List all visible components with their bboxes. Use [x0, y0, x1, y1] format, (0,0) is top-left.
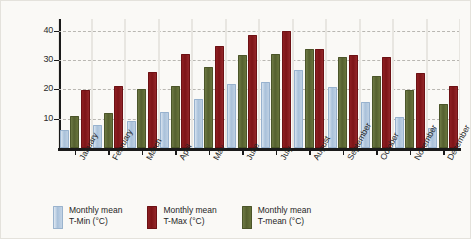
legend-label-line1: Monthly mean: [163, 205, 216, 216]
bar-group: [326, 19, 360, 148]
legend-label: Monthly meanT-Max (°C): [163, 205, 216, 227]
legend-swatch-tmax: [147, 206, 157, 229]
x-tick-mark: [175, 148, 177, 155]
x-tick-mark: [142, 148, 144, 155]
bar-tmax: [248, 35, 257, 148]
bar-group: [92, 19, 126, 148]
x-tick-mark: [242, 148, 244, 155]
y-tick-label: 40: [27, 25, 53, 35]
bar-group: [259, 19, 293, 148]
x-tick-mark: [108, 148, 110, 155]
y-tick-label: 20: [27, 83, 53, 93]
chart-legend: Monthly meanT-Min (°C)Monthly meanT-Max …: [53, 205, 311, 229]
legend-label-line2: T-mean (°C): [258, 216, 311, 227]
bar-tmean: [238, 55, 247, 148]
plot-area: [58, 19, 460, 148]
bar-tmax: [181, 54, 190, 148]
y-tick-mark: [54, 89, 59, 90]
chart-figure: Temperature (°C) 10203040 JanuaryFebruar…: [0, 0, 471, 239]
y-tick-mark: [54, 60, 59, 61]
legend-label: Monthly meanT-mean (°C): [258, 205, 311, 227]
bar-tmean: [305, 49, 314, 148]
bar-tmean: [405, 90, 414, 148]
bar-tmean: [171, 86, 180, 148]
bar-tmean: [439, 104, 448, 149]
bar-tmean: [104, 113, 113, 148]
bar-tmin: [261, 82, 270, 149]
legend-label-line1: Monthly mean: [69, 205, 122, 216]
bar-tmin: [60, 130, 69, 148]
bar-group: [192, 19, 226, 148]
bar-tmean: [271, 54, 280, 148]
legend-label-line2: T-Min (°C): [69, 216, 122, 227]
y-tick-mark: [54, 119, 59, 120]
legend-label-line2: T-Max (°C): [163, 216, 216, 227]
x-tick-mark: [343, 148, 345, 155]
legend-item[interactable]: Monthly meanT-Min (°C): [53, 205, 122, 229]
x-tick-mark: [376, 148, 378, 155]
bar-group: [226, 19, 260, 148]
bar-group: [159, 19, 193, 148]
legend-label: Monthly meanT-Min (°C): [69, 205, 122, 227]
bar-tmin: [227, 84, 236, 148]
bar-tmax: [282, 31, 291, 148]
bar-tmean: [204, 67, 213, 148]
x-tick-mark: [410, 148, 412, 155]
bar-tmax: [215, 46, 224, 148]
y-tick-mark: [54, 31, 59, 32]
legend-swatch-tmin: [53, 206, 63, 229]
bar-tmean: [137, 89, 146, 148]
bar-group: [393, 19, 427, 148]
bar-group: [58, 19, 92, 148]
x-tick-mark: [309, 148, 311, 155]
x-tick-mark: [209, 148, 211, 155]
bar-group: [293, 19, 327, 148]
y-tick-label: 30: [27, 54, 53, 64]
y-tick-label: 10: [27, 113, 53, 123]
bar-tmean: [70, 116, 79, 148]
bar-group: [125, 19, 159, 148]
bar-tmean: [338, 57, 347, 148]
legend-swatch-tmean: [242, 206, 252, 229]
x-tick-mark: [276, 148, 278, 155]
x-tick-mark: [75, 148, 77, 155]
legend-item[interactable]: Monthly meanT-Max (°C): [147, 205, 216, 229]
legend-item[interactable]: Monthly meanT-mean (°C): [242, 205, 311, 229]
bar-tmin: [294, 70, 303, 148]
bar-tmean: [372, 76, 381, 148]
bar-tmin: [194, 99, 203, 148]
x-tick-mark: [443, 148, 445, 155]
legend-label-line1: Monthly mean: [258, 205, 311, 216]
